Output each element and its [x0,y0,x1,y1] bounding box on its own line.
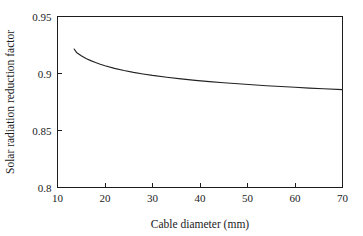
x-tick-label: 20 [100,192,112,204]
y-axis-tick-labels: 0.80.850.90.95 [32,11,52,194]
plot-frame [58,17,343,188]
y-tick-label: 0.9 [38,68,52,80]
chart-figure: 10203040506070 0.80.850.90.95 Cable diam… [0,0,363,236]
data-curve [74,49,342,90]
x-axis-ticks [58,183,343,188]
x-tick-label: 30 [147,192,159,204]
x-axis-tick-labels: 10203040506070 [52,192,349,204]
data-series-layer [74,49,342,90]
y-axis-ticks [58,74,63,131]
x-tick-label: 50 [242,192,254,204]
y-tick-label: 0.95 [32,11,52,23]
x-tick-label: 10 [52,192,64,204]
plot-border [58,17,343,188]
x-axis-title: Cable diameter (mm) [151,218,250,231]
y-axis-title: Solar radiation reduction factor [4,30,16,174]
x-tick-label: 60 [290,192,302,204]
y-tick-label: 0.85 [32,125,52,137]
x-tick-label: 40 [195,192,207,204]
chart-canvas: 10203040506070 0.80.850.90.95 Cable diam… [0,0,363,236]
y-tick-label: 0.8 [38,182,52,194]
x-tick-label: 70 [337,192,349,204]
